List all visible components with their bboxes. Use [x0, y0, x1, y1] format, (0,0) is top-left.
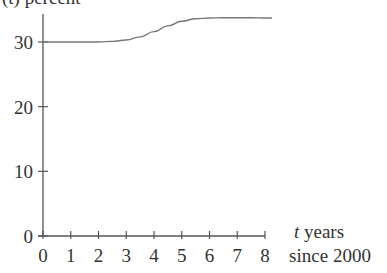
x-tick-label: 0	[38, 245, 48, 266]
x-tick-label: 6	[205, 245, 215, 266]
y-tick-label: 0	[24, 226, 34, 247]
y-axis-label: (t) percent	[2, 0, 81, 9]
x-tick-label: 3	[122, 245, 132, 266]
x-tick-label: 1	[66, 245, 76, 266]
y-tick-label: 10	[14, 161, 33, 182]
x-tick-label: 2	[94, 245, 104, 266]
x-tick-label: 5	[177, 245, 187, 266]
x-axis-label-line1: t years	[294, 221, 344, 242]
x-axis-label-line2: since 2000	[289, 245, 371, 266]
y-tick-label: 20	[14, 97, 33, 118]
data-curve	[43, 18, 272, 42]
x-tick-label: 4	[149, 245, 159, 266]
x-tick-label: 7	[233, 245, 243, 266]
x-tick-label: 8	[260, 245, 270, 266]
y-tick-label: 30	[14, 32, 33, 53]
line-chart: (t) percent 0102030 012345678 t years si…	[0, 0, 387, 273]
